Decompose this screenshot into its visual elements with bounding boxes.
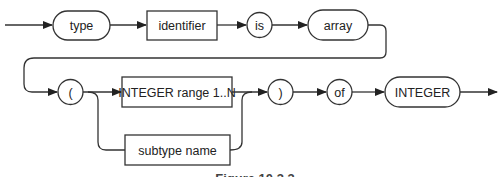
node-integer-range-label: INTEGER range 1..N — [118, 86, 235, 100]
node-rparen: ) — [268, 80, 293, 105]
node-lparen: ( — [58, 80, 83, 105]
node-of: of — [327, 80, 352, 105]
node-type: type — [53, 11, 110, 40]
figure-caption: Figure 10.3.3 — [215, 171, 294, 177]
node-subtype-name-label: subtype name — [138, 144, 217, 158]
node-integer-label: INTEGER — [395, 86, 451, 100]
node-identifier-label: identifier — [158, 19, 205, 33]
row-2: ( INTEGER range 1..N subtype name ) of — [58, 77, 497, 165]
syntax-diagram: type identifier is array ( INT — [0, 0, 502, 177]
node-array: array — [308, 10, 368, 40]
branch-down — [88, 92, 125, 150]
node-of-label: of — [334, 86, 345, 100]
node-subtype-name: subtype name — [125, 135, 230, 165]
node-rparen-label: ) — [278, 86, 282, 100]
node-array-label: array — [324, 19, 353, 33]
row-1: type identifier is array — [5, 10, 368, 40]
node-is-label: is — [255, 19, 264, 33]
node-integer: INTEGER — [385, 77, 460, 107]
branch-up — [230, 92, 252, 150]
node-identifier: identifier — [147, 11, 217, 40]
node-type-label: type — [70, 19, 94, 33]
node-is: is — [247, 13, 272, 38]
node-integer-range: INTEGER range 1..N — [118, 77, 235, 107]
